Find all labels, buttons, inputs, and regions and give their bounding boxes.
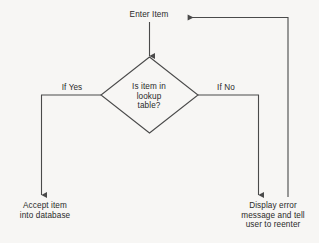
- node-label-decision: Is item in lookup table?: [132, 82, 166, 111]
- connector-feedback-loop: [188, 18, 288, 198]
- connector-no-branch: [198, 95, 259, 195]
- node-label-accept-item: Accept item into database: [20, 201, 70, 220]
- flowchart-canvas: Enter Item Is item in lookup table? If Y…: [0, 0, 319, 243]
- connector-yes-branch: [42, 95, 102, 195]
- edge-label-if-no: If No: [217, 83, 235, 93]
- node-label-enter-item: Enter Item: [130, 10, 169, 20]
- node-label-display-error: Display error message and tell user to r…: [241, 201, 305, 230]
- edge-label-if-yes: If Yes: [62, 83, 83, 93]
